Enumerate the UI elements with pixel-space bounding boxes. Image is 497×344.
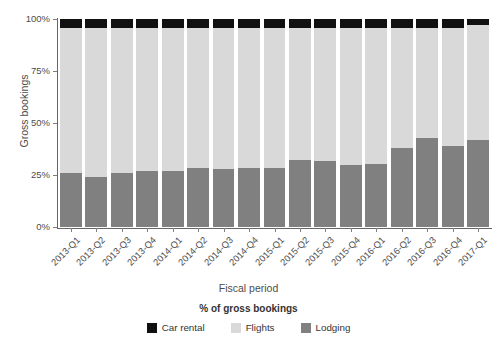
bar-segment-flights[interactable]: [314, 28, 336, 161]
bar-segment-lodging[interactable]: [416, 138, 438, 227]
bar-segment-flights[interactable]: [60, 28, 82, 173]
bar-group[interactable]: [365, 19, 387, 227]
x-tick-mark: [71, 228, 72, 232]
x-tick-mark: [376, 228, 377, 232]
bar-segment-flights[interactable]: [391, 28, 413, 148]
x-tick-mark: [249, 228, 250, 232]
bar-group[interactable]: [340, 19, 362, 227]
legend-label: Flights: [246, 322, 275, 333]
bar-segment-flights[interactable]: [467, 25, 489, 139]
bar-segment-car-rental[interactable]: [416, 19, 438, 28]
bar-segment-car-rental[interactable]: [85, 19, 107, 28]
bar-segment-lodging[interactable]: [238, 168, 260, 227]
x-tick-mark: [402, 228, 403, 232]
bar-group[interactable]: [264, 19, 286, 227]
bar-group[interactable]: [442, 19, 464, 227]
legend-item[interactable]: Flights: [231, 322, 275, 333]
bar-segment-car-rental[interactable]: [162, 19, 184, 28]
bar-segment-lodging[interactable]: [442, 146, 464, 227]
bar-segment-lodging[interactable]: [340, 165, 362, 227]
bar-segment-lodging[interactable]: [187, 168, 209, 227]
y-tick-mark: [53, 19, 57, 20]
x-tick-mark: [96, 228, 97, 232]
bar-segment-lodging[interactable]: [111, 173, 133, 227]
x-tick-mark: [478, 228, 479, 232]
legend-swatch-icon: [301, 323, 311, 333]
bar-group[interactable]: [85, 19, 107, 227]
bar-segment-flights[interactable]: [111, 28, 133, 173]
bar-group[interactable]: [467, 19, 489, 227]
bar-segment-flights[interactable]: [416, 28, 438, 137]
bar-segment-car-rental[interactable]: [340, 19, 362, 28]
bar-segment-car-rental[interactable]: [442, 19, 464, 28]
bar-segment-car-rental[interactable]: [467, 19, 489, 25]
bar-segment-lodging[interactable]: [162, 171, 184, 227]
bar-group[interactable]: [289, 19, 311, 227]
y-tick-label: 100%: [6, 14, 50, 24]
bar-group[interactable]: [238, 19, 260, 227]
bar-segment-car-rental[interactable]: [187, 19, 209, 28]
x-tick-mark: [300, 228, 301, 232]
bar-segment-lodging[interactable]: [264, 168, 286, 227]
bar-segment-car-rental[interactable]: [264, 19, 286, 28]
bar-segment-lodging[interactable]: [289, 160, 311, 227]
bar-segment-car-rental[interactable]: [314, 19, 336, 28]
bar-segment-flights[interactable]: [238, 28, 260, 167]
bar-segment-lodging[interactable]: [136, 171, 158, 227]
x-tick-mark: [224, 228, 225, 232]
bar-group[interactable]: [60, 19, 82, 227]
legend-items: Car rentalFlightsLodging: [0, 322, 497, 333]
bar-segment-car-rental[interactable]: [213, 19, 235, 28]
bar-group[interactable]: [111, 19, 133, 227]
x-tick-mark: [275, 228, 276, 232]
bar-segment-lodging[interactable]: [391, 148, 413, 227]
bar-segment-lodging[interactable]: [365, 164, 387, 227]
bar-group[interactable]: [162, 19, 184, 227]
bar-segment-lodging[interactable]: [467, 140, 489, 227]
bar-segment-flights[interactable]: [85, 28, 107, 177]
x-tick-label: 2017-Q1: [440, 235, 489, 284]
bar-segment-car-rental[interactable]: [136, 19, 158, 28]
y-tick-mark: [53, 227, 57, 228]
legend-item[interactable]: Lodging: [301, 322, 351, 333]
y-tick-label: 50%: [6, 118, 50, 128]
bar-segment-flights[interactable]: [136, 28, 158, 170]
bar-segment-lodging[interactable]: [60, 173, 82, 227]
x-axis-title: Fiscal period: [0, 282, 497, 294]
bar-segment-lodging[interactable]: [213, 169, 235, 227]
bar-segment-flights[interactable]: [213, 28, 235, 168]
x-tick-mark: [427, 228, 428, 232]
x-axis-tick-labels: 2013-Q12013-Q22013-Q32013-Q42014-Q12014-…: [0, 228, 497, 288]
bar-segment-flights[interactable]: [162, 28, 184, 170]
x-tick-mark: [198, 228, 199, 232]
y-tick-label: 75%: [6, 66, 50, 76]
bar-group[interactable]: [136, 19, 158, 227]
bar-segment-car-rental[interactable]: [391, 19, 413, 28]
x-tick-mark: [147, 228, 148, 232]
bar-group[interactable]: [213, 19, 235, 227]
x-tick-mark: [351, 228, 352, 232]
bar-segment-flights[interactable]: [264, 28, 286, 167]
bar-segment-car-rental[interactable]: [365, 19, 387, 28]
bar-segment-flights[interactable]: [289, 28, 311, 160]
y-tick-mark: [53, 123, 57, 124]
legend-label: Lodging: [316, 322, 351, 333]
legend-item[interactable]: Car rental: [147, 322, 205, 333]
bar-segment-flights[interactable]: [187, 28, 209, 167]
bar-segment-flights[interactable]: [365, 28, 387, 163]
stacked-bar-chart: Gross bookings 0%25%50%75%100% 2013-Q120…: [0, 0, 497, 344]
legend-swatch-icon: [147, 323, 157, 333]
bar-group[interactable]: [187, 19, 209, 227]
bar-segment-flights[interactable]: [340, 28, 362, 164]
bar-group[interactable]: [391, 19, 413, 227]
bar-segment-lodging[interactable]: [85, 177, 107, 227]
bar-group[interactable]: [314, 19, 336, 227]
bar-segment-car-rental[interactable]: [238, 19, 260, 28]
bar-segment-car-rental[interactable]: [289, 19, 311, 28]
x-tick-mark: [173, 228, 174, 232]
bar-segment-flights[interactable]: [442, 28, 464, 146]
bar-group[interactable]: [416, 19, 438, 227]
bar-segment-car-rental[interactable]: [60, 19, 82, 28]
bar-segment-car-rental[interactable]: [111, 19, 133, 28]
bar-segment-lodging[interactable]: [314, 161, 336, 227]
